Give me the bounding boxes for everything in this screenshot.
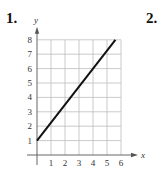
y-tick-label: 1 [28,136,33,146]
x-tick-label: 4 [91,158,96,168]
y-axis-arrow-icon [35,27,39,34]
series-line [37,40,115,141]
y-axis-label: y [33,15,38,25]
line-chart: xy 12345612345678 [0,0,168,180]
data-series [37,40,115,141]
y-tick-label: 2 [28,121,33,131]
x-tick-label: 5 [105,158,110,168]
y-tick-label: 3 [28,107,33,117]
x-tick-label: 2 [63,158,68,168]
x-tick-label: 6 [119,158,124,168]
x-tick-label: 3 [77,158,82,168]
x-axis-arrow-icon [131,153,138,157]
y-tick-label: 8 [28,35,33,45]
x-tick-label: 1 [49,158,54,168]
grid [37,40,121,155]
y-tick-label: 7 [28,49,33,59]
axes: xy [27,15,145,165]
y-tick-label: 5 [28,78,33,88]
y-tick-label: 4 [28,92,33,102]
tick-labels: 12345612345678 [28,35,124,168]
x-axis-label: x [140,150,145,160]
y-tick-label: 6 [28,64,33,74]
